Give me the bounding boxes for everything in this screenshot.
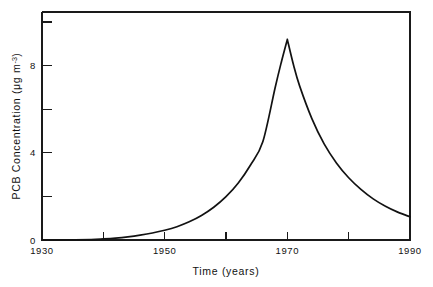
pcb-concentration-curve [42, 39, 410, 240]
y-tick-label-4: 4 [30, 147, 36, 158]
y-tick-label-0: 0 [30, 235, 36, 246]
axes-box [42, 12, 410, 240]
x-tick-label-1970: 1970 [276, 245, 300, 256]
plot-frame [42, 12, 410, 240]
y-axis-ticks [42, 22, 52, 240]
y-axis-title-prefix: PCB Concentration ( [10, 90, 22, 200]
y-axis-title-suffix: ) [10, 53, 22, 57]
figure-container: 0 4 8 1930 1950 1970 1990 Time (years) P… [0, 0, 433, 287]
pcb-concentration-chart: 0 4 8 1930 1950 1970 1990 Time (years) P… [0, 0, 433, 287]
y-axis-title: PCB Concentration (μg m-3) [10, 53, 23, 200]
y-axis-title-exponent: -3 [10, 57, 19, 64]
x-axis-title: Time (years) [193, 265, 260, 277]
x-tick-label-1990: 1990 [398, 245, 422, 256]
y-tick-label-8: 8 [30, 60, 36, 71]
x-tick-label-1930: 1930 [30, 245, 54, 256]
y-axis-title-unit: μg m [10, 64, 22, 90]
x-tick-label-1950: 1950 [153, 245, 177, 256]
